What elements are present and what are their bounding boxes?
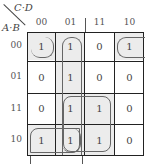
- row-header-11: 11: [2, 103, 22, 113]
- row-header-10: 10: [2, 134, 22, 144]
- cell-r3-c3: 0: [115, 125, 144, 156]
- cell-r1-c3: 0: [115, 62, 144, 93]
- loop-r00c10: [117, 37, 145, 58]
- row-header-01: 01: [2, 71, 22, 81]
- tick-bottom-col01: [82, 156, 83, 164]
- col-var-label: C·D: [14, 2, 33, 13]
- cell-r2-c3: 0: [115, 93, 144, 124]
- col-header-11: 11: [85, 17, 114, 27]
- col-header-10: 10: [115, 17, 144, 27]
- tick-bottom-col00: [30, 156, 31, 164]
- col-header-01: 01: [56, 17, 85, 27]
- row-header-00: 00: [2, 40, 22, 50]
- col-header-00: 00: [27, 17, 56, 27]
- cell-r2-c0: 0: [27, 93, 56, 124]
- cell-r1-c0: 0: [27, 62, 56, 93]
- row-var-label: A·B: [2, 22, 20, 33]
- loop-r10c01-close: [62, 128, 81, 153]
- loop-r00c00: [31, 37, 54, 58]
- cell-r0-c2: 0: [85, 31, 114, 62]
- tick-top-col01: [85, 18, 86, 32]
- cell-r1-c2: 0: [85, 62, 114, 93]
